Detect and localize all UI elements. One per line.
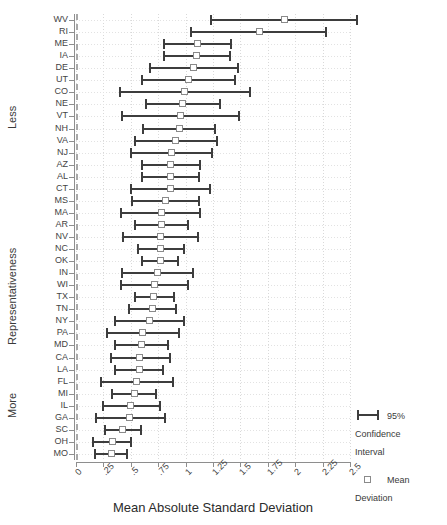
mean-deviation-marker[interactable] (139, 329, 146, 336)
data-row[interactable] (76, 448, 350, 460)
mean-deviation-marker[interactable] (109, 438, 116, 445)
data-row[interactable] (76, 123, 350, 135)
y-axis-tick-label-nv: NV (8, 232, 68, 241)
data-row[interactable] (76, 159, 350, 171)
data-row[interactable] (76, 86, 350, 98)
mean-deviation-marker[interactable] (193, 52, 200, 59)
mean-deviation-marker[interactable] (131, 390, 138, 397)
data-row[interactable] (76, 436, 350, 448)
data-row[interactable] (76, 135, 350, 147)
data-row[interactable] (76, 98, 350, 110)
mean-deviation-marker[interactable] (146, 317, 153, 324)
data-row[interactable] (76, 14, 350, 26)
data-row[interactable] (76, 219, 350, 231)
confidence-interval-cap-low (137, 244, 139, 254)
mean-deviation-marker[interactable] (167, 173, 174, 180)
data-row[interactable] (76, 231, 350, 243)
mean-deviation-marker[interactable] (136, 354, 143, 361)
data-row[interactable] (76, 291, 350, 303)
mean-deviation-marker[interactable] (127, 402, 134, 409)
data-row[interactable] (76, 243, 350, 255)
mean-deviation-marker[interactable] (126, 414, 133, 421)
mean-deviation-marker[interactable] (179, 100, 186, 107)
mean-deviation-marker[interactable] (157, 233, 164, 240)
mean-deviation-marker[interactable] (151, 281, 158, 288)
mean-deviation-marker[interactable] (119, 426, 126, 433)
mean-deviation-marker[interactable] (177, 112, 184, 119)
mean-deviation-marker[interactable] (154, 269, 161, 276)
y-axis-tick-label-nc: NC (8, 244, 68, 253)
data-row[interactable] (76, 267, 350, 279)
confidence-interval-cap-low (163, 51, 165, 61)
mean-deviation-marker[interactable] (176, 125, 183, 132)
confidence-interval-cap-low (141, 75, 143, 85)
data-row[interactable] (76, 412, 350, 424)
data-row[interactable] (76, 364, 350, 376)
data-row[interactable] (76, 279, 350, 291)
data-row[interactable] (76, 424, 350, 436)
y-axis-tick (69, 32, 74, 33)
mean-deviation-marker[interactable] (167, 185, 174, 192)
confidence-interval-cap-high (183, 316, 185, 326)
confidence-interval-cap-low (92, 437, 94, 447)
mean-deviation-marker[interactable] (172, 137, 179, 144)
data-row[interactable] (76, 376, 350, 388)
data-row[interactable] (76, 26, 350, 38)
data-row[interactable] (76, 327, 350, 339)
data-row[interactable] (76, 315, 350, 327)
data-row[interactable] (76, 400, 350, 412)
data-row[interactable] (76, 74, 350, 86)
mean-deviation-marker[interactable] (138, 341, 145, 348)
confidence-interval-cap-high (177, 256, 179, 266)
data-row[interactable] (76, 195, 350, 207)
x-axis-tick-label: 0 (73, 466, 84, 477)
mean-deviation-marker[interactable] (190, 64, 197, 71)
confidence-interval-cap-low (122, 232, 124, 242)
data-row[interactable] (76, 147, 350, 159)
data-row[interactable] (76, 62, 350, 74)
y-axis-tick-label-tx: TX (8, 292, 68, 301)
mean-deviation-marker[interactable] (133, 378, 140, 385)
confidence-interval-cap-low (130, 148, 132, 158)
data-row[interactable] (76, 171, 350, 183)
confidence-interval-cap-low (141, 160, 143, 170)
mean-deviation-marker[interactable] (157, 257, 164, 264)
mean-deviation-marker[interactable] (181, 88, 188, 95)
mean-deviation-marker[interactable] (150, 293, 157, 300)
mean-deviation-marker[interactable] (136, 366, 143, 373)
y-axis-tick (69, 68, 74, 69)
confidence-interval-cap-low (104, 425, 106, 435)
mean-deviation-marker[interactable] (162, 197, 169, 204)
y-axis-tick (69, 189, 74, 190)
mean-deviation-marker[interactable] (158, 209, 165, 216)
y-axis-tick (69, 201, 74, 202)
y-axis-tick (69, 249, 74, 250)
mean-deviation-marker[interactable] (157, 245, 164, 252)
data-row[interactable] (76, 352, 350, 364)
mean-deviation-marker[interactable] (185, 76, 192, 83)
y-axis-tick-label-ny: NY (8, 316, 68, 325)
data-row[interactable] (76, 110, 350, 122)
data-row[interactable] (76, 388, 350, 400)
mean-deviation-marker[interactable] (256, 28, 263, 35)
data-row[interactable] (76, 207, 350, 219)
mean-deviation-marker[interactable] (167, 161, 174, 168)
data-row[interactable] (76, 50, 350, 62)
data-row[interactable] (76, 255, 350, 267)
y-axis-tick-label-va: VA (8, 136, 68, 145)
mean-deviation-marker[interactable] (158, 221, 165, 228)
mean-deviation-marker[interactable] (108, 450, 115, 457)
mean-deviation-marker[interactable] (281, 16, 288, 23)
data-row[interactable] (76, 38, 350, 50)
mean-deviation-marker[interactable] (168, 149, 175, 156)
data-row[interactable] (76, 303, 350, 315)
data-row[interactable] (76, 183, 350, 195)
y-axis-tick-label-de: DE (8, 63, 68, 72)
confidence-interval-cap-low (114, 316, 116, 326)
confidence-interval-cap-low (119, 87, 121, 97)
data-row[interactable] (76, 339, 350, 351)
confidence-interval-cap-high (356, 15, 358, 25)
mean-deviation-marker[interactable] (149, 305, 156, 312)
mean-deviation-marker[interactable] (194, 40, 201, 47)
confidence-interval-cap-high (211, 148, 213, 158)
